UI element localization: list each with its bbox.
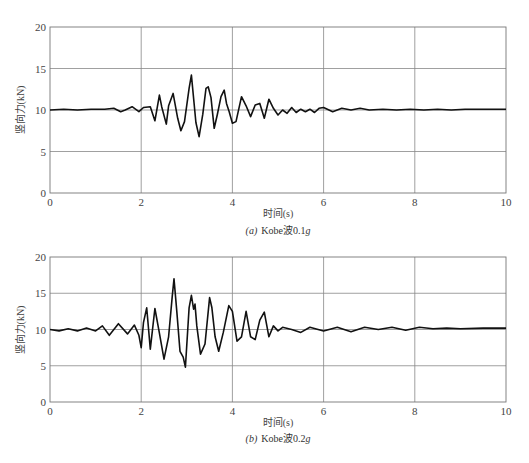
plot-b-caption-text: Kobe波0.2 (261, 432, 305, 444)
x-tick-label: 6 (321, 196, 327, 208)
plot-b-y-ticks: 05101520 (35, 251, 47, 408)
figure: 05101520 0246810 竖向力(kN) 时间(s) (a)Kobe波0… (0, 0, 529, 463)
plot-b-caption: (b)Kobe波0.2g (246, 432, 311, 445)
plot-a-y-label: 竖向力(kN) (14, 86, 27, 135)
x-tick-label: 8 (412, 405, 418, 417)
plot-b-grid (50, 257, 506, 402)
plot-a-x-label: 时间(s) (263, 207, 294, 220)
plot-a-x-ticks: 0246810 (47, 196, 512, 208)
x-tick-label: 6 (321, 405, 327, 417)
plot-b-y-label: 竖向力(kN) (14, 306, 27, 355)
plot-a-trace (50, 75, 506, 137)
x-tick-label: 10 (501, 405, 513, 417)
plot-a-caption-prefix: (a) (246, 225, 258, 237)
plot-a-y-ticks: 05101520 (35, 21, 47, 199)
y-tick-label: 10 (35, 104, 47, 116)
x-tick-label: 2 (138, 196, 144, 208)
y-tick-label: 20 (35, 251, 47, 263)
y-tick-label: 15 (35, 63, 47, 75)
plot-b-caption-prefix: (b) (246, 433, 258, 445)
plot-a: 05101520 0246810 竖向力(kN) 时间(s) (a)Kobe波0… (14, 21, 512, 237)
y-tick-label: 10 (35, 324, 47, 336)
plot-b-x-label: 时间(s) (263, 416, 294, 429)
x-tick-label: 2 (138, 405, 144, 417)
x-tick-label: 0 (47, 196, 53, 208)
plot-b-caption-g: g (305, 433, 310, 444)
plot-b-x-ticks: 0246810 (47, 405, 512, 417)
y-tick-label: 0 (41, 396, 47, 408)
y-tick-label: 15 (35, 287, 47, 299)
y-tick-label: 20 (35, 21, 47, 33)
x-tick-label: 8 (412, 196, 418, 208)
plot-b-trace (50, 279, 506, 367)
plot-a-caption-g: g (305, 225, 310, 236)
plot-a-caption: (a)Kobe波0.1g (246, 224, 311, 237)
plot-a-caption-text: Kobe波0.1 (261, 224, 305, 236)
plot-b: 05101520 0246810 竖向力(kN) 时间(s) (b)Kobe波0… (14, 251, 512, 445)
x-tick-label: 4 (230, 196, 236, 208)
x-tick-label: 0 (47, 405, 53, 417)
y-tick-label: 5 (41, 360, 47, 372)
y-tick-label: 0 (41, 187, 47, 199)
x-tick-label: 4 (230, 405, 236, 417)
x-tick-label: 10 (501, 196, 513, 208)
y-tick-label: 5 (41, 146, 47, 158)
